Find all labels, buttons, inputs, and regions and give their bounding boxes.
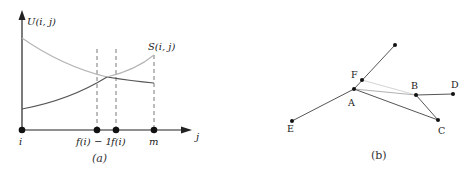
caption-a: (a) — [92, 153, 107, 164]
panel-a-graph — [19, 10, 193, 134]
node-f — [360, 78, 364, 82]
node-b — [414, 93, 418, 97]
diagram-canvas — [0, 0, 472, 179]
caption-b: (b) — [371, 150, 387, 161]
node-label-e: E — [287, 124, 294, 134]
tick-dot-f-minus-1 — [94, 127, 101, 134]
node-label-b: B — [411, 81, 418, 91]
edge-a-c — [354, 89, 438, 120]
tick-label-m: m — [149, 137, 158, 147]
node-c — [436, 118, 440, 122]
node-top — [393, 43, 397, 47]
node-label-f: F — [351, 70, 358, 80]
curve-u-dark — [107, 77, 154, 83]
node-a — [352, 87, 356, 91]
curve-s-light — [107, 55, 154, 77]
edge-b-d — [416, 94, 453, 95]
panel-b-graph — [290, 43, 455, 123]
curve-s-label: S(i, j) — [148, 42, 175, 52]
y-axis-label: U(i, j) — [27, 17, 56, 27]
node-label-a: A — [348, 98, 355, 108]
edge-a-e — [292, 89, 354, 121]
tick-dot-i — [19, 127, 26, 134]
tick-dot-m — [151, 127, 158, 134]
tick-label-f: f(i) — [111, 137, 126, 147]
node-label-c: C — [438, 126, 445, 136]
tick-dot-f — [113, 127, 120, 134]
node-label-d: D — [451, 80, 459, 90]
curve-u-light — [22, 38, 107, 77]
x-axis-label: j — [196, 132, 199, 142]
edge-a-top — [354, 45, 395, 89]
curve-s-dark — [22, 77, 107, 109]
node-d — [451, 92, 455, 96]
tick-label-f-minus-1: f(i) − 1 — [76, 137, 112, 147]
y-axis-arrow-icon — [19, 10, 26, 20]
x-axis-arrow-icon — [181, 127, 192, 134]
tick-label-i: i — [19, 137, 22, 147]
